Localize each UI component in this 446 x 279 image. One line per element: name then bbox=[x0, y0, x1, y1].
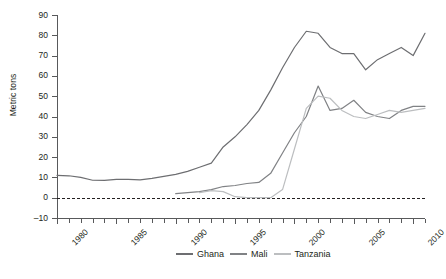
chart-legend: Ghana Mali Tanzania bbox=[176, 249, 331, 259]
legend-item-ghana: Ghana bbox=[176, 249, 224, 259]
legend-swatch-mali bbox=[230, 253, 247, 254]
legend-swatch-tanzania bbox=[274, 253, 291, 254]
legend-label-ghana: Ghana bbox=[197, 249, 224, 259]
series-line-ghana bbox=[57, 31, 425, 180]
legend-label-tanzania: Tanzania bbox=[295, 249, 331, 259]
series-line-tanzania bbox=[199, 96, 425, 198]
legend-item-mali: Mali bbox=[230, 249, 268, 259]
legend-swatch-ghana bbox=[176, 253, 193, 254]
legend-item-tanzania: Tanzania bbox=[274, 249, 331, 259]
legend-label-mali: Mali bbox=[251, 249, 268, 259]
series-line-mali bbox=[176, 86, 425, 194]
